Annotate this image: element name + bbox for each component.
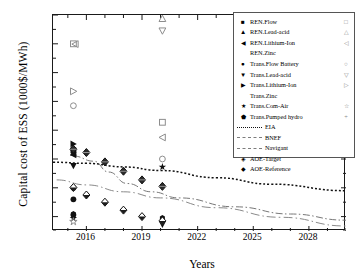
series-aoe-reference	[70, 145, 166, 190]
series-ren-lead-acid-open-	[159, 15, 166, 21]
legend-marker-filled-icon: ◀	[237, 39, 249, 46]
chart-screenshot: Capital cost of ESS (1000$/MWh) Years 20…	[0, 0, 357, 278]
legend-row-marker: ■REN.Flow□	[237, 16, 352, 27]
legend-marker-open-icon: ▷	[340, 81, 352, 88]
legend-marker-filled-icon: ▼	[237, 71, 249, 78]
legend-row-marker: ▼Trans.Lead-acid▽	[237, 69, 352, 80]
legend-row-line: Navigant	[237, 143, 352, 154]
legend-marker-filled-icon: ●	[237, 60, 249, 67]
x-tick-label: 2025	[229, 232, 275, 242]
series-trans-pumped-hydro	[71, 211, 165, 221]
legend-label: Trans.Flow Battery	[249, 60, 340, 67]
legend-row-marker: ★Trans.Com-Air☆	[237, 100, 352, 111]
legend-row-marker: ▲REN.Lead-acid△	[237, 27, 352, 38]
legend-label: Trans.Lead-acid	[249, 71, 340, 78]
legend-label: Trans.Com-Air	[249, 102, 340, 109]
series-trans-com-air-open-	[70, 218, 77, 225]
legend-label: Trans.Pumped hydro	[249, 113, 340, 120]
series-trans-lithium-ion-open-	[70, 88, 76, 95]
y-axis-title: Capital cost of ESS (1000$/MWh)	[17, 9, 29, 239]
legend-row-marker: Trans.Zinc	[237, 90, 352, 101]
legend-line-sample	[237, 145, 263, 151]
legend-marker-filled-icon: ▲	[237, 28, 249, 35]
legend-row-diamond: ◆AOE-Reference	[237, 164, 352, 175]
legend-row-marker: ●Trans.Flow Battery○	[237, 58, 352, 69]
series-trans-lead-acid-open-	[159, 28, 166, 34]
legend-marker-open-icon: △	[340, 28, 352, 35]
series-ren-flow-open-	[70, 41, 165, 125]
legend-label: REN.Flow	[249, 18, 340, 25]
legend-line-sample	[237, 134, 263, 140]
x-tick-label: 2028	[285, 232, 331, 242]
x-axis-title: Years	[52, 258, 352, 270]
trend-line-navigant	[57, 180, 346, 226]
legend-marker-open-icon: □	[340, 18, 352, 25]
x-tick-label: 2022	[174, 232, 220, 242]
legend-marker-filled-icon: ▶	[237, 81, 249, 88]
legend-row-line: EIA	[237, 121, 352, 132]
legend-row-marker: ▶Trans.Lithium-Ion▷	[237, 79, 352, 90]
legend-marker-open-icon: +	[340, 113, 352, 120]
legend-label: Navigant	[263, 144, 352, 151]
legend-label: REN.Lithium-Ion	[249, 39, 340, 46]
legend-marker-diamond-icon: ◈	[237, 155, 249, 162]
legend-marker-open-icon: ◁	[340, 39, 352, 46]
legend-marker-diamond-icon: ◆	[237, 165, 249, 172]
legend-marker-open-icon: ☆	[340, 102, 352, 109]
legend-marker-filled-icon: ⬟	[237, 113, 249, 120]
legend-label: REN.Zinc	[249, 49, 340, 56]
chart-legend: ■REN.Flow□▲REN.Lead-acid△◀REN.Lithium-Io…	[233, 12, 355, 158]
series-ren-lithium-ion-open-	[72, 41, 165, 141]
series-trans-com-air	[70, 163, 166, 222]
legend-row-marker: REN.Zinc	[237, 48, 352, 59]
legend-row-marker: ◀REN.Lithium-Ion◁	[237, 37, 352, 48]
legend-label: AOE-Reference	[249, 165, 352, 172]
legend-marker-filled-icon: ★	[237, 102, 249, 109]
legend-label: REN.Lead-acid	[249, 28, 340, 35]
legend-marker-filled-icon: ■	[237, 18, 249, 25]
legend-row-marker: ⬟Trans.Pumped hydro+	[237, 111, 352, 122]
legend-label: Trans.Lithium-Ion	[249, 81, 340, 88]
x-tick-label: 2019	[118, 232, 164, 242]
legend-label: Trans.Zinc	[249, 92, 340, 99]
legend-marker-open-icon: ○	[340, 60, 352, 67]
legend-label: AOE-Target	[249, 155, 352, 162]
series-aoe-target	[70, 184, 166, 225]
x-tick-label: 2016	[62, 232, 108, 242]
legend-marker-open-icon: ▽	[340, 71, 352, 78]
legend-line-sample	[237, 124, 263, 130]
legend-row-line: BNEF	[237, 132, 352, 143]
legend-label: BNEF	[263, 134, 352, 141]
legend-label: EIA	[263, 123, 352, 130]
legend-row-diamond: ◈AOE-Target	[237, 153, 352, 164]
